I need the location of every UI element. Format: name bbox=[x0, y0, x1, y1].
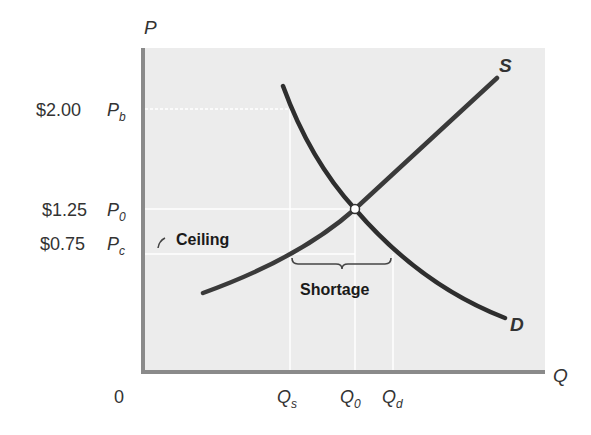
shortage-label: Shortage bbox=[300, 281, 369, 298]
qd-label: Qd bbox=[382, 387, 403, 411]
demand-label: D bbox=[510, 314, 524, 335]
supply-label: S bbox=[499, 55, 512, 76]
price-b-symbol: Pb bbox=[107, 100, 126, 124]
price-b-value: $2.00 bbox=[36, 100, 81, 120]
supply-demand-chart: P Q 0 $2.00 Pb $1.25 P0 $0.75 Pc Qs Q0 Q… bbox=[0, 0, 591, 435]
price-c-symbol: Pc bbox=[107, 234, 125, 258]
price-c-value: $0.75 bbox=[40, 234, 85, 254]
origin-label: 0 bbox=[114, 387, 124, 407]
ceiling-label: Ceiling bbox=[176, 231, 229, 248]
equilibrium-point bbox=[351, 205, 360, 214]
price-0-value: $1.25 bbox=[42, 200, 87, 220]
p-axis-label: P bbox=[144, 17, 157, 38]
price-0-symbol: P0 bbox=[107, 200, 126, 224]
qs-label: Qs bbox=[277, 387, 297, 411]
q0-label: Q0 bbox=[340, 387, 361, 411]
q-axis-label: Q bbox=[553, 365, 568, 386]
plot-area bbox=[142, 48, 545, 372]
